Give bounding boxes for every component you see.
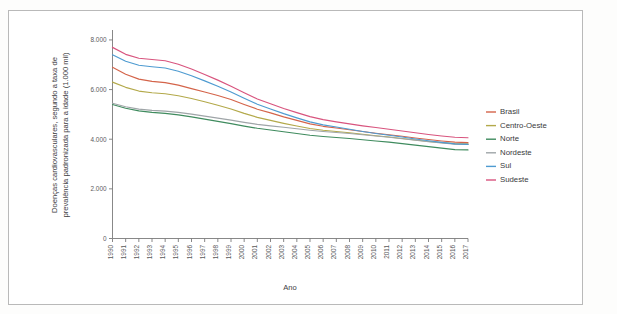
legend-label-brasil: Brasil <box>500 107 520 116</box>
x-tick-label: 2004 <box>291 245 298 260</box>
x-axis-ticks: 1990199119921993199419951996199719981999… <box>107 239 470 260</box>
x-tick-label: 2002 <box>265 245 272 260</box>
y-tick-label: 4.000 <box>91 136 107 143</box>
legend-label-sudeste: Sudeste <box>500 175 529 184</box>
legend-label-centro-oeste: Centro-Oeste <box>500 121 547 130</box>
x-axis-title: Ano <box>283 283 297 292</box>
y-axis-ticks: 02.0004.0006.0008.000 <box>91 36 113 242</box>
figure-root: 02.0004.0006.0008.000 199019911992199319… <box>0 0 617 314</box>
x-tick-label: 1998 <box>212 245 219 260</box>
x-tick-label: 1994 <box>159 245 166 260</box>
series-line-brasil <box>113 67 469 142</box>
x-tick-label: 1993 <box>146 245 153 260</box>
x-tick-label: 2009 <box>357 245 364 260</box>
legend-label-nordeste: Nordeste <box>500 148 532 157</box>
y-axis-title-svg: Doenças cardiovasculares, segundo a taxa… <box>48 30 78 240</box>
y-axis-title-holder: Doenças cardiovasculares, segundo a taxa… <box>48 30 78 240</box>
x-tick-label: 1999 <box>225 245 232 260</box>
x-tick-label: 1990 <box>107 245 114 260</box>
y-tick-label: 6.000 <box>91 86 107 93</box>
x-tick-label: 1995 <box>172 245 179 260</box>
series-line-sul <box>113 55 469 145</box>
x-tick-label: 2005 <box>304 245 311 260</box>
x-tick-label: 2016 <box>449 245 456 260</box>
x-tick-label: 2012 <box>396 245 403 260</box>
x-tick-label: 2010 <box>370 245 377 260</box>
x-tick-label: 1996 <box>186 245 193 260</box>
chart-legend: BrasilCentro-OesteNorteNordesteSulSudest… <box>486 107 547 184</box>
x-tick-label: 2013 <box>409 245 416 260</box>
legend-label-sul: Sul <box>500 161 512 170</box>
x-tick-label: 2011 <box>383 245 390 259</box>
legend-label-norte: Norte <box>500 134 519 143</box>
y-tick-label: 2.000 <box>91 185 107 192</box>
x-tick-label: 2000 <box>238 245 245 260</box>
y-tick-label: 8.000 <box>91 36 107 43</box>
y-tick-label: 0 <box>103 235 107 242</box>
x-tick-label: 2017 <box>462 245 469 260</box>
x-tick-label: 1997 <box>199 245 206 260</box>
chart-surface: 02.0004.0006.0008.000 199019911992199319… <box>0 0 617 314</box>
x-tick-label: 2003 <box>278 245 285 260</box>
x-tick-label: 1992 <box>133 245 140 260</box>
series-lines <box>113 47 469 150</box>
x-tick-label: 2008 <box>344 245 351 260</box>
x-tick-label: 2015 <box>436 245 443 260</box>
x-tick-label: 2001 <box>251 245 258 260</box>
x-tick-label: 2007 <box>330 245 337 260</box>
x-tick-label: 2006 <box>317 245 324 260</box>
y-axis-title-line1: Doenças cardiovasculares, segundo a taxa… <box>50 57 59 213</box>
line-chart: 02.0004.0006.0008.000 199019911992199319… <box>0 0 617 314</box>
y-axis-title-line2: prevalência padronizada para a idade (1.… <box>61 52 70 218</box>
x-tick-label: 1991 <box>120 245 127 260</box>
x-tick-label: 2014 <box>423 245 430 260</box>
